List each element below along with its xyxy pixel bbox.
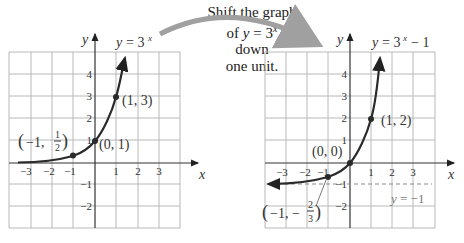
svg-text:(0, 0): (0, 0)	[312, 144, 343, 160]
svg-text:1: 1	[368, 166, 374, 178]
svg-text:= 3: = 3	[382, 35, 400, 50]
svg-text:−1: −1	[335, 178, 347, 190]
svg-text:3: 3	[87, 90, 93, 102]
svg-text:3: 3	[308, 213, 313, 224]
svg-text:2: 2	[308, 199, 313, 210]
svg-text:y: y	[389, 191, 397, 206]
svg-text:−1: −1	[80, 178, 92, 190]
svg-text:−1: −1	[64, 165, 76, 177]
svg-text:= 3: = 3	[126, 35, 144, 50]
svg-text:−2: −2	[80, 200, 92, 212]
svg-text:−2: −2	[299, 166, 311, 178]
svg-text:−2: −2	[43, 165, 55, 177]
svg-text:(: (	[262, 202, 268, 223]
svg-text:= −1: = −1	[400, 191, 424, 206]
svg-text:3: 3	[410, 166, 416, 178]
svg-text:y: y	[335, 32, 344, 47]
svg-text:(: (	[18, 131, 24, 152]
svg-text:3: 3	[156, 165, 162, 177]
right-graph: x y −3−2 −11 23 43 21 −1−2 y= 3x− 1 (1, …	[262, 32, 455, 228]
svg-text:(1, 3): (1, 3)	[122, 93, 153, 109]
svg-text:x: x	[402, 33, 407, 43]
svg-text:2: 2	[135, 165, 141, 177]
svg-text:2: 2	[87, 112, 93, 124]
svg-text:4: 4	[342, 68, 348, 80]
svg-text:− 1: − 1	[411, 35, 429, 50]
svg-text:2: 2	[342, 112, 348, 124]
svg-text:x: x	[147, 33, 152, 43]
svg-text:): )	[62, 131, 68, 152]
svg-text:3: 3	[342, 90, 348, 102]
svg-text:2: 2	[55, 142, 60, 153]
svg-text:−1, −: −1, −	[270, 206, 300, 221]
svg-text:y: y	[114, 35, 123, 50]
svg-text:x: x	[447, 167, 455, 182]
svg-text:1: 1	[113, 165, 119, 177]
left-graph: x y −3−2 −11 23 43 21 −1−2 y= 3x (1, 3) …	[9, 32, 206, 228]
svg-text:1: 1	[55, 129, 60, 140]
svg-text:): )	[315, 202, 321, 223]
svg-text:−3: −3	[20, 165, 32, 177]
svg-text:(1, 2): (1, 2)	[381, 113, 412, 129]
svg-text:y: y	[80, 32, 89, 47]
shift-arrow-icon	[160, 17, 310, 40]
svg-text:y: y	[370, 35, 379, 50]
svg-text:2: 2	[389, 166, 395, 178]
svg-text:−3: −3	[276, 166, 288, 178]
svg-text:x: x	[198, 167, 206, 182]
svg-text:4: 4	[87, 68, 93, 80]
svg-text:(0, 1): (0, 1)	[99, 137, 130, 153]
graphs-canvas: x y −3−2 −11 23 43 21 −1−2 y= 3x (1, 3) …	[0, 0, 464, 243]
svg-text:−1,: −1,	[26, 135, 44, 150]
svg-text:−2: −2	[335, 200, 347, 212]
